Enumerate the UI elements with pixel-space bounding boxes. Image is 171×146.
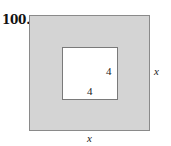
inner-right-label: 4 — [106, 65, 112, 77]
outer-bottom-label: x — [87, 132, 92, 144]
inner-bottom-label: 4 — [87, 85, 93, 97]
problem-number: 100. — [2, 13, 30, 27]
outer-right-label: x — [154, 65, 159, 77]
